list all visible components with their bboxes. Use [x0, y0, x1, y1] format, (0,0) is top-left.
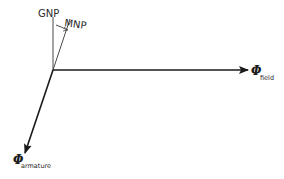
armature-flux-subscript: armature	[21, 162, 51, 170]
flux-vector-diagram: GNP MNP Φ field Φ armature	[0, 0, 284, 179]
armature-flux-arrow	[25, 70, 53, 153]
gnp-label: GNP	[38, 8, 59, 19]
diagram-svg: GNP MNP Φ field Φ armature	[0, 0, 284, 179]
field-flux-subscript: field	[260, 74, 274, 82]
